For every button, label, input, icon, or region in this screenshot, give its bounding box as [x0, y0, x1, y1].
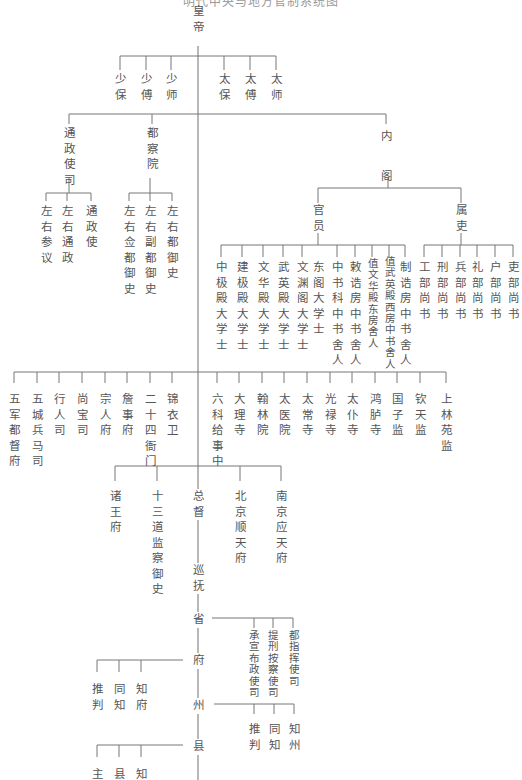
node-xunfu: 巡抚 — [191, 563, 205, 594]
node-guanglusi: 光禄寺 — [323, 392, 337, 439]
node-shanglinyuanjian: 上林苑监 — [439, 392, 453, 454]
node-zongdu: 总督 — [191, 489, 205, 520]
node-wuying-xifang: 值武英殿西房中书舍人 — [383, 256, 396, 370]
node-bingbu: 兵部尚书 — [453, 260, 467, 322]
node-zongrenfu: 宗人府 — [98, 392, 112, 439]
node-hubu: 户部尚书 — [488, 260, 502, 322]
node-guanyuan: 官员 — [311, 203, 325, 234]
node-zuoyou-canyi: 左右参议 — [39, 204, 53, 266]
node-dalisi: 大理寺 — [232, 392, 246, 439]
node-chigaofang: 敕诰房中书舍人 — [348, 260, 362, 369]
node-zhanshifu: 詹事府 — [120, 392, 134, 439]
node-honglusi: 鸿胪寺 — [368, 392, 382, 439]
node-hanlinyuan: 翰林院 — [255, 392, 269, 439]
node-zhigaofang: 制诰房中书舍人 — [398, 260, 412, 369]
node-fu-tuipan: 推判 — [90, 682, 104, 713]
node-beijing-shuntianfu: 北京顺天府 — [233, 489, 247, 567]
node-neige: 内阁 — [379, 116, 393, 196]
node-tongzhengshisi: 通政使司 — [62, 126, 76, 188]
node-emperor: 皇帝 — [191, 4, 205, 35]
node-qian-duyushi: 左右佥都御史 — [122, 204, 136, 297]
node-zhou-tongzhi: 同知 — [267, 722, 281, 753]
node-qintianjian: 钦天监 — [413, 392, 427, 439]
node-zhongjidian: 中极殿大学士 — [214, 260, 228, 353]
node-county-zhu: 主 — [90, 767, 104, 780]
node-guozijian: 国子监 — [390, 392, 404, 439]
node-taipusi: 太仆寺 — [345, 392, 359, 439]
node-taichangsi: 太常寺 — [300, 392, 314, 439]
node-liuke-jishizhong: 六科给事中 — [210, 392, 224, 470]
node-zhongshuke: 中书科中书舍人 — [330, 260, 344, 369]
node-ershisi-yamen: 二十四衙门 — [143, 392, 157, 470]
connector-lines — [0, 0, 522, 780]
node-taiyiyuan: 太医院 — [277, 392, 291, 439]
node-fu-tongzhi: 同知 — [112, 682, 126, 713]
node-shaobao: 少保 — [113, 72, 127, 103]
node-libu-rites: 礼部尚书 — [470, 260, 484, 322]
node-nanjing-yingtianfu: 南京应天府 — [274, 489, 288, 567]
node-fu-duyushi: 左右副都御史 — [143, 204, 157, 297]
node-jianjidian: 建极殿大学士 — [235, 260, 249, 353]
node-wuyingdian: 武英殿大学士 — [276, 260, 290, 353]
node-duchayuan: 都察院 — [145, 126, 159, 173]
node-zhou: 州 — [191, 698, 205, 714]
node-taifu: 太傅 — [243, 72, 257, 103]
node-county-xian: 县 — [112, 767, 126, 780]
node-shaoshi: 少师 — [164, 72, 178, 103]
node-gongbu: 工部尚书 — [417, 260, 431, 322]
node-zhifu: 知府 — [134, 682, 148, 713]
node-tongzhengshi: 通政使 — [84, 204, 98, 251]
node-shuli: 属吏 — [454, 203, 468, 234]
node-wujun-dudufu: 五军都督府 — [7, 392, 21, 470]
node-jinyiwei: 锦衣卫 — [165, 392, 179, 439]
org-chart: 明代中央与地方官制系统图 — [0, 0, 522, 780]
node-libu-personnel: 吏部尚书 — [506, 260, 520, 322]
node-wucheng-bingmasi: 五城兵马司 — [30, 392, 44, 470]
node-zhou-tuipan: 推判 — [247, 722, 261, 753]
node-shangbaosi: 尚宝司 — [75, 392, 89, 439]
node-xian: 县 — [191, 739, 205, 755]
node-wenyuange: 文渊阁大学士 — [295, 260, 309, 353]
node-taishi: 太师 — [269, 72, 283, 103]
node-wenhuadian: 文华殿大学士 — [256, 260, 270, 353]
node-xingrensi: 行人司 — [52, 392, 66, 439]
node-duzhihui-shisi: 都指挥使司 — [287, 630, 300, 687]
node-taibao: 太保 — [217, 72, 231, 103]
node-xingbu: 刑部尚书 — [435, 260, 449, 322]
node-tixing-anchashisi: 提刑按察使司 — [266, 630, 279, 698]
node-zhuwangfu: 诸王府 — [108, 489, 122, 536]
node-chengxuan-buzhengshisi: 承宣布政使司 — [247, 630, 260, 698]
node-shaofu: 少傅 — [139, 72, 153, 103]
node-duyushi: 左右都御史 — [165, 204, 179, 282]
node-county-zhi: 知 — [134, 767, 148, 780]
node-fu: 府 — [191, 653, 205, 669]
node-wenhua-dongfang: 值文华殿东房舍人 — [366, 258, 379, 349]
node-dongge: 东阁大学士 — [311, 260, 325, 338]
node-zuoyou-tongzheng: 左右通政 — [60, 204, 74, 266]
node-shisandao-jianchayushi: 十三道监察御史 — [150, 489, 164, 598]
node-zhizhou: 知州 — [287, 722, 301, 753]
node-sheng: 省 — [191, 612, 205, 628]
